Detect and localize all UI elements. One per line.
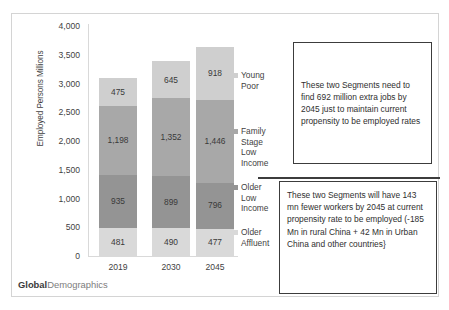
divider-rule — [258, 177, 440, 179]
legend-swatch-icon — [233, 73, 238, 78]
legend-item-label: Older Low Income — [241, 182, 268, 214]
bar-segment-label: 935 — [111, 197, 125, 205]
bar-segment: 1,352 — [152, 98, 190, 176]
bar-stack: 4908991,352645 — [152, 0, 190, 256]
bar-segment: 899 — [152, 176, 190, 228]
chart-screenshot: Employed Persons Millions 05001,0001,500… — [0, 0, 449, 310]
callout-top-text: These two Segments need to find 692 mill… — [301, 79, 424, 128]
bar-segment-label: 1,198 — [108, 136, 129, 144]
legend-item[interactable]: Older Affluent — [233, 227, 269, 248]
brand-light: Demographics — [47, 279, 107, 290]
legend-swatch-icon — [233, 230, 238, 235]
bar-segment-label: 475 — [111, 88, 125, 96]
brand-bold: Global — [18, 279, 47, 290]
plot-area: Employed Persons Millions 05001,0001,500… — [0, 0, 449, 310]
legend-item[interactable]: Young Poor — [233, 70, 264, 91]
bar-segment: 475 — [99, 78, 137, 105]
bar-segment-label: 796 — [208, 201, 222, 209]
legend-item-label: Young Poor — [241, 70, 264, 91]
bar-segment-label: 1,446 — [205, 137, 226, 145]
x-axis-tick-label: 2030 — [147, 262, 195, 272]
legend-item[interactable]: Family Stage Low Income — [233, 126, 268, 168]
x-axis-tick-label: 2019 — [94, 262, 142, 272]
legend-item[interactable]: Older Low Income — [233, 182, 268, 214]
bar-segment-label: 645 — [164, 76, 178, 84]
bar-segment-label: 899 — [164, 198, 178, 206]
legend-swatch-icon — [233, 185, 238, 190]
x-axis-line — [88, 256, 238, 257]
bar-segment: 1,446 — [196, 100, 234, 183]
bar-segment-label: 918 — [208, 69, 222, 77]
bar-stack: 4819351,198475 — [99, 0, 137, 256]
bar-segment: 796 — [196, 183, 234, 229]
legend-swatch-icon — [233, 129, 238, 134]
bar-segment: 935 — [99, 175, 137, 229]
callout-bottom-text: These two Segments will have 143 mn fewe… — [287, 189, 429, 250]
bar-segment: 490 — [152, 228, 190, 256]
bar-segment: 918 — [196, 47, 234, 100]
legend-item-label: Family Stage Low Income — [241, 126, 268, 168]
bar-segment: 477 — [196, 229, 234, 256]
x-axis-tick-label: 2045 — [191, 262, 239, 272]
bar-segment-label: 490 — [164, 238, 178, 246]
callout-bottom: These two Segments will have 143 mn fewe… — [279, 181, 437, 294]
bar-segment: 645 — [152, 61, 190, 98]
bar-segment: 481 — [99, 228, 137, 256]
callout-top: These two Segments need to find 692 mill… — [293, 42, 432, 164]
bar-segment-label: 477 — [208, 238, 222, 246]
bar-stack: 4777961,446918 — [196, 0, 234, 256]
bar-segment-label: 481 — [111, 238, 125, 246]
bar-segment-label: 1,352 — [161, 133, 182, 141]
bar-segment: 1,198 — [99, 106, 137, 175]
brand-logo: GlobalDemographics — [18, 279, 108, 290]
legend-item-label: Older Affluent — [241, 227, 269, 248]
